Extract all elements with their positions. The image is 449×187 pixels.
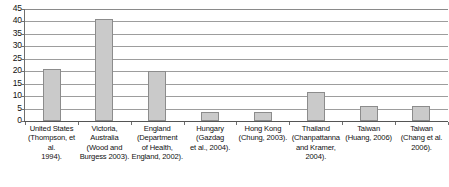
y-tick-label: 25 bbox=[0, 54, 22, 63]
y-tick-mark bbox=[21, 96, 24, 97]
x-axis: United States (Thompson, et al. 1994). V… bbox=[25, 124, 448, 186]
gridline bbox=[25, 46, 448, 47]
gridline bbox=[25, 21, 448, 22]
x-label-line: (Gazdag bbox=[182, 133, 238, 142]
x-label-line: Australia bbox=[76, 133, 132, 142]
x-label-line: Burgess 2003). bbox=[76, 152, 132, 161]
bar-united-states bbox=[43, 69, 61, 121]
bar-hong-kong bbox=[254, 112, 272, 121]
x-label-line: Hungary bbox=[182, 124, 238, 133]
x-label-line: (Chang et al. bbox=[394, 133, 449, 142]
x-axis-label-united-states: United States (Thompson, et al. 1994). bbox=[24, 124, 80, 162]
y-axis: 0 5 10 15 20 25 30 35 40 45 bbox=[0, 8, 22, 120]
plot-area bbox=[25, 9, 448, 121]
bar-taiwan-chang bbox=[412, 106, 430, 121]
x-axis-label-taiwan-chang: Taiwan (Chang et al. 2006). bbox=[394, 124, 449, 152]
gridline bbox=[25, 109, 448, 110]
y-tick-mark bbox=[21, 34, 24, 35]
bar-thailand bbox=[307, 92, 325, 121]
y-tick-mark bbox=[21, 21, 24, 22]
x-label-line: 2004). bbox=[288, 152, 344, 161]
bar-taiwan-huang bbox=[360, 106, 378, 121]
y-tick-label: 35 bbox=[0, 29, 22, 38]
x-axis-label-england: England (Department of Health, England, … bbox=[129, 124, 185, 162]
gridline bbox=[25, 96, 448, 97]
y-tick-label: 45 bbox=[0, 4, 22, 13]
x-label-line: et al., 2004). bbox=[182, 143, 238, 152]
y-tick-mark bbox=[21, 84, 24, 85]
y-tick-label: 15 bbox=[0, 79, 22, 88]
x-label-line: (Wood and bbox=[76, 143, 132, 152]
gridline bbox=[25, 84, 448, 85]
x-axis-label-victoria-australia: Victoria, Australia (Wood and Burgess 20… bbox=[76, 124, 132, 162]
y-tick-label: 10 bbox=[0, 91, 22, 100]
y-tick-label: 30 bbox=[0, 41, 22, 50]
y-tick-mark bbox=[21, 109, 24, 110]
x-label-line: Victoria, bbox=[76, 124, 132, 133]
x-label-line: Hong Kong bbox=[235, 124, 291, 133]
x-label-line: and Kramer, bbox=[288, 143, 344, 152]
y-tick-mark bbox=[21, 59, 24, 60]
x-label-line: 2006). bbox=[394, 143, 449, 152]
x-label-line: (Chanpattanna bbox=[288, 133, 344, 142]
x-label-line: (Huang, 2006) bbox=[341, 133, 397, 142]
gridline bbox=[25, 59, 448, 60]
x-label-line: Thailand bbox=[288, 124, 344, 133]
x-axis-label-thailand: Thailand (Chanpattanna and Kramer, 2004)… bbox=[288, 124, 344, 162]
x-axis-label-hong-kong: Hong Kong (Chung, 2003). bbox=[235, 124, 291, 143]
bar-victoria-australia bbox=[95, 19, 113, 121]
bar-hungary bbox=[201, 112, 219, 121]
x-label-line: 1994). bbox=[24, 152, 80, 161]
bar-chart: 0 5 10 15 20 25 30 35 40 45 bbox=[0, 0, 449, 187]
x-label-line: of Health, bbox=[129, 143, 185, 152]
y-tick-mark bbox=[21, 71, 24, 72]
x-label-line: England bbox=[129, 124, 185, 133]
x-label-line: (Thompson, et al. bbox=[24, 133, 80, 152]
y-tick-label: 0 bbox=[0, 116, 22, 125]
x-label-line: Taiwan bbox=[394, 124, 449, 133]
x-label-line: (Chung, 2003). bbox=[235, 133, 291, 142]
x-axis-label-hungary: Hungary (Gazdag et al., 2004). bbox=[182, 124, 238, 152]
x-label-line: United States bbox=[24, 124, 80, 133]
y-tick-label: 40 bbox=[0, 16, 22, 25]
bar-england bbox=[148, 71, 166, 121]
y-tick-label: 20 bbox=[0, 66, 22, 75]
x-axis-label-taiwan-huang: Taiwan (Huang, 2006) bbox=[341, 124, 397, 143]
y-tick-mark bbox=[21, 9, 24, 10]
gridline bbox=[25, 71, 448, 72]
x-label-line: England, 2002). bbox=[129, 152, 185, 161]
y-tick-label: 5 bbox=[0, 104, 22, 113]
y-tick-mark bbox=[21, 46, 24, 47]
x-label-line: (Department bbox=[129, 133, 185, 142]
gridline bbox=[25, 34, 448, 35]
x-label-line: Taiwan bbox=[341, 124, 397, 133]
